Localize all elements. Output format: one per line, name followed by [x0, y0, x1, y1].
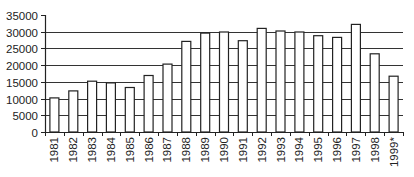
bar-1990: [220, 32, 229, 132]
x-tick-label: 1993: [275, 137, 287, 163]
y-tick-label: 30000: [6, 27, 38, 39]
bar-1988: [182, 41, 191, 132]
bar-1985: [125, 88, 134, 133]
x-tick-label: 1990: [218, 137, 230, 163]
x-tick-label: 1998: [369, 137, 381, 163]
y-tick-label: 0: [32, 127, 38, 139]
x-tick-label: 1981: [48, 137, 60, 163]
bar-1992: [257, 28, 266, 132]
x-tick-label: 1999*: [388, 136, 400, 167]
y-tick-label: 5000: [12, 110, 38, 122]
x-tick-label: 1992: [256, 137, 268, 163]
x-tick-label: 1986: [143, 137, 155, 163]
x-tick-label: 1983: [86, 137, 98, 163]
bar-1993: [276, 31, 285, 132]
bar-chart: 05000100001500020000250003000035000 1981…: [0, 0, 414, 177]
x-tick-label: 1989: [199, 137, 211, 163]
bar-1994: [295, 32, 304, 132]
bar-1989: [201, 33, 210, 132]
bar-1998: [370, 54, 379, 132]
bar-1981: [50, 98, 59, 132]
bar-1991: [238, 41, 247, 132]
y-tick-label: 10000: [6, 94, 38, 106]
y-tick-label: 25000: [6, 43, 38, 55]
bar-1983: [88, 81, 97, 132]
y-tick-label: 20000: [6, 60, 38, 72]
x-tick-label: 1988: [180, 137, 192, 163]
x-tick-label: 1994: [293, 136, 305, 162]
x-tick-label: 1995: [312, 137, 324, 163]
x-axis: 1981198219831984198519861987198819891990…: [45, 132, 404, 167]
x-tick-label: 1982: [67, 137, 79, 163]
x-tick-label: 1997: [350, 137, 362, 163]
x-tick-label: 1987: [161, 137, 173, 163]
x-tick-label: 1996: [331, 137, 343, 163]
y-tick-label: 15000: [6, 77, 38, 89]
x-tick-label: 1984: [105, 136, 117, 162]
x-tick-label: 1985: [124, 137, 136, 163]
y-axis: 05000100001500020000250003000035000: [6, 10, 45, 139]
bar-1995: [314, 36, 323, 132]
bar-1996: [333, 37, 342, 132]
bar-1984: [106, 83, 115, 132]
bar-1982: [69, 91, 78, 132]
bar-1986: [144, 76, 153, 133]
y-tick-label: 35000: [6, 10, 38, 22]
bar-1999*: [389, 76, 398, 132]
bar-1997: [351, 24, 360, 132]
x-tick-label: 1991: [237, 137, 249, 163]
bar-1987: [163, 64, 172, 132]
